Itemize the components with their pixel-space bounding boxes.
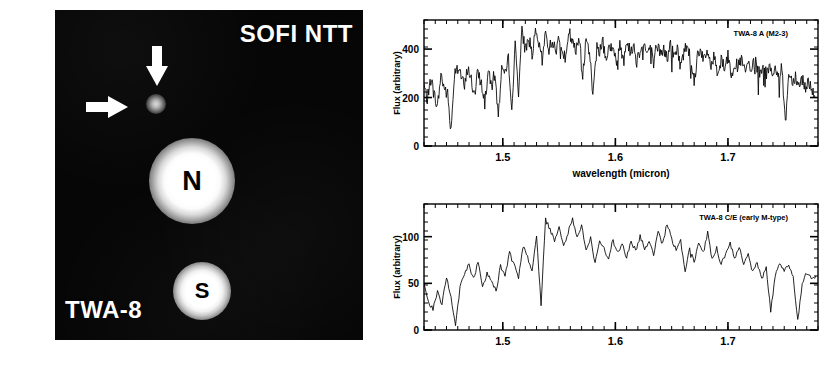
spectrum-chart-twa-8-ce: 1.51.61.7050100Flux (arbitrary)TWA-8 C/E… — [380, 190, 830, 365]
faint-companion-source — [146, 94, 166, 114]
x-tick-label: 1.6 — [608, 335, 623, 347]
y-tick-label: 0 — [413, 325, 419, 336]
y-axis-title: Flux (arbitrary) — [392, 235, 402, 299]
down-arrow-head — [146, 66, 168, 86]
spectrum-chart-twa-8-a: 1.51.61.70200400wavelength (micron)Flux … — [380, 6, 830, 186]
chart-annotation: TWA-8 A (M2-3) — [734, 29, 789, 38]
star-twa-8-north: N — [149, 138, 235, 224]
y-axis-title: Flux (arbitrary) — [392, 51, 402, 115]
right-arrow-head — [108, 96, 128, 118]
x-tick-label: 1.6 — [608, 151, 623, 163]
x-tick-label: 1.5 — [495, 151, 510, 163]
star-label-north: N — [149, 138, 235, 224]
down-arrow-icon — [146, 46, 168, 88]
right-arrow-icon — [86, 96, 130, 118]
plot-frame — [424, 204, 818, 330]
spectrum-bottom-svg: 1.51.61.7050100Flux (arbitrary)TWA-8 C/E… — [380, 190, 830, 365]
y-tick-label: 0 — [413, 141, 419, 152]
y-tick-label: 200 — [402, 93, 419, 104]
nir-image-panel: N S SOFI NTT TWA-8 — [55, 10, 363, 340]
spectrum-trace — [424, 26, 816, 129]
y-tick-label: 400 — [402, 44, 419, 55]
x-axis-title: wavelength (micron) — [571, 168, 669, 179]
instrument-label: SOFI NTT — [240, 20, 353, 48]
y-tick-label: 50 — [408, 278, 420, 289]
x-tick-label: 1.7 — [720, 335, 735, 347]
target-label: TWA-8 — [65, 296, 142, 324]
figure-root: N S SOFI NTT TWA-8 1.51.61.70200400wavel… — [0, 0, 840, 370]
x-tick-label: 1.5 — [495, 335, 510, 347]
star-twa-8-south: S — [173, 262, 231, 320]
spectrum-trace — [424, 218, 816, 326]
star-label-south: S — [173, 262, 231, 320]
chart-annotation: TWA-8 C/E (early M-type) — [699, 213, 788, 222]
x-tick-label: 1.7 — [720, 151, 735, 163]
y-tick-label: 100 — [402, 232, 419, 243]
spectrum-top-svg: 1.51.61.70200400wavelength (micron)Flux … — [380, 6, 830, 186]
